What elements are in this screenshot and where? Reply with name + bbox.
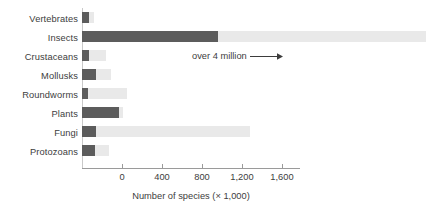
- bar-described-protozoans: [82, 145, 95, 156]
- x-tick-label-400: 400: [154, 172, 170, 183]
- x-tick-1200: [242, 164, 243, 169]
- x-axis-title: Number of species (× 1,000): [82, 191, 300, 202]
- x-tick-label-1200: 1,200: [230, 172, 253, 183]
- x-tick-label-0: 0: [119, 172, 124, 183]
- x-tick-label-1600: 1,600: [270, 172, 293, 183]
- bar-described-roundworms: [82, 88, 88, 99]
- bar-described-plants: [82, 107, 119, 118]
- category-label-fungi: Fungi: [0, 128, 78, 139]
- bar-described-mollusks: [82, 69, 96, 80]
- category-label-roundworms: Roundworms: [0, 90, 78, 101]
- plot-area: over 4 million 0 400 800 1,200 1,600 Num…: [82, 0, 436, 217]
- bar-described-insects: [82, 31, 218, 42]
- x-tick-0: [122, 164, 123, 169]
- category-label-crustaceans: Crustaceans: [0, 52, 78, 63]
- x-axis-line: [82, 168, 300, 169]
- arrow-right-icon: [250, 52, 284, 61]
- category-label-vertebrates: Vertebrates: [0, 14, 78, 25]
- category-axis-labels: Vertebrates Insects Crustaceans Mollusks…: [0, 0, 78, 217]
- bar-estimated-roundworms: [82, 88, 127, 99]
- bar-described-vertebrates: [82, 12, 89, 23]
- bar-estimated-fungi: [82, 126, 250, 137]
- bar-described-crustaceans: [82, 50, 89, 61]
- category-label-mollusks: Mollusks: [0, 71, 78, 82]
- annotation-label: over 4 million: [192, 51, 247, 62]
- category-label-plants: Plants: [0, 109, 78, 120]
- annotation-over-4-million: over 4 million: [192, 51, 284, 62]
- category-label-insects: Insects: [0, 33, 78, 44]
- x-tick-800: [202, 164, 203, 169]
- x-tick-1600: [282, 164, 283, 169]
- species-bar-chart: Vertebrates Insects Crustaceans Mollusks…: [0, 0, 436, 217]
- category-label-protozoans: Protozoans: [0, 147, 78, 158]
- x-tick-400: [162, 164, 163, 169]
- bar-described-fungi: [82, 126, 96, 137]
- x-tick-label-800: 800: [194, 172, 210, 183]
